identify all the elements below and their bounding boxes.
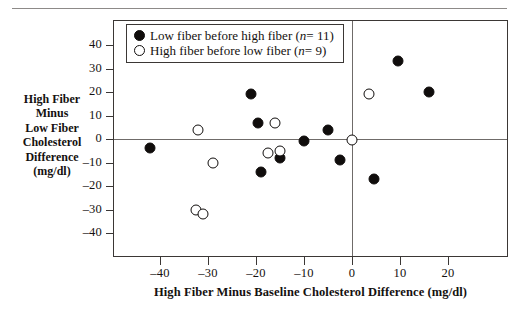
x-tick-label-3: –10 xyxy=(284,267,324,280)
legend-label-1: Low fiber before high fiber ( xyxy=(150,28,300,43)
data-point-s0-7 xyxy=(335,155,346,166)
y-tick-4 xyxy=(106,139,114,140)
x-tick-label-1: –30 xyxy=(188,267,228,280)
open-circle-icon xyxy=(134,45,145,56)
data-point-s0-3 xyxy=(255,166,266,177)
data-point-s1-3 xyxy=(207,157,218,168)
legend-n-value-1: = 11) xyxy=(306,28,333,43)
x-tick-6 xyxy=(448,257,449,265)
y-tick-label-1: 30 xyxy=(68,62,102,75)
legend-n-value-2: = 9) xyxy=(305,43,326,58)
x-tick-0 xyxy=(160,257,161,265)
x-tick-4 xyxy=(352,257,353,265)
data-point-s0-8 xyxy=(368,173,379,184)
data-point-s1-6 xyxy=(275,145,286,156)
page-top-rule xyxy=(12,8,507,9)
data-point-s1-4 xyxy=(263,148,274,159)
y-tick-7 xyxy=(106,210,114,211)
x-tick-label-4: 0 xyxy=(332,267,372,280)
zero-line-horizontal xyxy=(114,139,507,140)
x-tick-5 xyxy=(400,257,401,265)
y-tick-label-2: 20 xyxy=(68,85,102,98)
data-point-s0-10 xyxy=(423,87,434,98)
data-point-s0-1 xyxy=(246,89,257,100)
legend-label-2: High fiber before low fiber ( xyxy=(150,43,298,58)
data-point-s0-2 xyxy=(253,117,264,128)
x-tick-label-2: –20 xyxy=(236,267,276,280)
data-point-s0-6 xyxy=(323,124,334,135)
y-tick-label-5: –10 xyxy=(68,156,102,169)
data-point-s1-2 xyxy=(198,209,209,220)
y-tick-label-3: 10 xyxy=(68,109,102,122)
y-tick-0 xyxy=(106,45,114,46)
y-tick-2 xyxy=(106,92,114,93)
x-tick-1 xyxy=(208,257,209,265)
x-axis-title: High Fiber Minus Baseline Cholesterol Di… xyxy=(113,285,508,300)
data-point-s1-5 xyxy=(270,117,281,128)
scatter-plot-figure: High Fiber Minus Low Fiber Cholesterol D… xyxy=(0,0,517,314)
x-tick-2 xyxy=(256,257,257,265)
y-tick-label-8: –40 xyxy=(68,226,102,239)
data-point-s0-9 xyxy=(392,56,403,67)
x-tick-label-6: 20 xyxy=(428,267,468,280)
x-tick-label-0: –40 xyxy=(140,267,180,280)
legend-item-high-fiber-before-low-fiber: High fiber before low fiber (n = 9) xyxy=(134,43,334,58)
legend-item-low-fiber-before-high-fiber: Low fiber before high fiber (n = 11) xyxy=(134,28,334,43)
y-tick-label-6: –20 xyxy=(68,179,102,192)
data-point-s0-5 xyxy=(299,136,310,147)
y-tick-label-0: 40 xyxy=(68,38,102,51)
data-point-s1-7 xyxy=(347,135,358,146)
y-tick-label-7: –30 xyxy=(68,203,102,216)
data-point-s1-8 xyxy=(363,89,374,100)
data-point-s1-1 xyxy=(193,124,204,135)
y-tick-1 xyxy=(106,69,114,70)
y-tick-6 xyxy=(106,186,114,187)
legend-box: Low fiber before high fiber (n = 11) Hig… xyxy=(126,24,344,63)
y-tick-label-4: 0 xyxy=(68,132,102,145)
filled-circle-icon xyxy=(134,30,145,41)
x-tick-3 xyxy=(304,257,305,265)
data-point-s0-0 xyxy=(145,143,156,154)
y-tick-8 xyxy=(106,233,114,234)
x-tick-label-5: 10 xyxy=(380,267,420,280)
y-tick-5 xyxy=(106,163,114,164)
y-tick-3 xyxy=(106,116,114,117)
